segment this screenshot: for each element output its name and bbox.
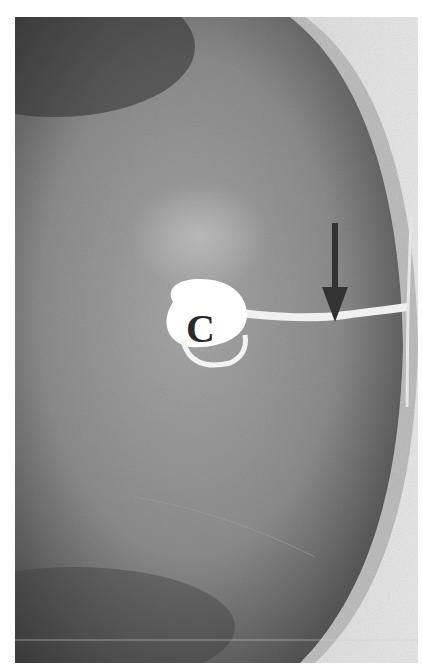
- micrograph-svg: [15, 17, 418, 663]
- pale-zone: [130, 182, 270, 292]
- micrograph-image: C: [15, 17, 418, 663]
- cavity-label: C: [186, 309, 215, 349]
